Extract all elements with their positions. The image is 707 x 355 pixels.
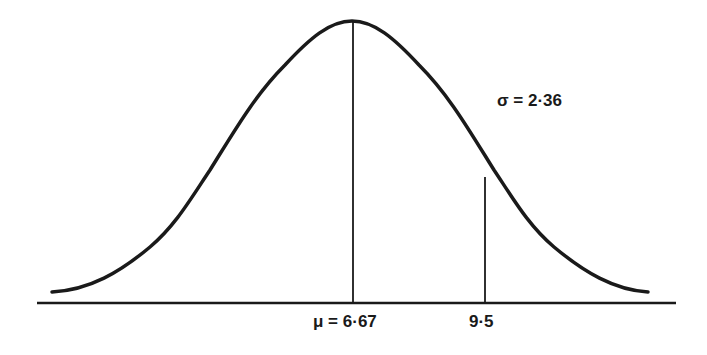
mean-label: μ = 6·67 <box>313 313 377 330</box>
normal-distribution-diagram <box>0 0 707 355</box>
sigma-label: σ = 2·36 <box>497 92 562 109</box>
marked-value-label: 9·5 <box>469 313 494 330</box>
bell-curve <box>52 21 648 292</box>
